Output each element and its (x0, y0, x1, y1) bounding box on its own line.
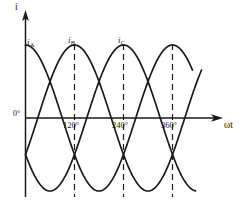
x-axis-label: ωt (224, 121, 233, 131)
curve-label-ic-subscript: C (121, 39, 125, 46)
curve-label-ib-subscript: B (71, 39, 75, 46)
three-phase-waveform-figure: i ωt 0° iA iB iC 120° 240° 360° (0, 0, 242, 210)
waveform-plot-svg (0, 0, 242, 210)
origin-label: 0° (13, 110, 20, 118)
x-tick-label-360: 360° (161, 121, 177, 130)
curve-label-ia-subscript: A (30, 41, 35, 48)
x-tick-label-120: 120° (63, 121, 79, 130)
curve-label-ic: iC (118, 36, 125, 45)
y-axis-label: i (15, 3, 18, 13)
x-tick-label-240: 240° (112, 121, 128, 130)
curve-label-ia: iA (27, 38, 34, 47)
curve-label-ib: iB (68, 36, 75, 45)
